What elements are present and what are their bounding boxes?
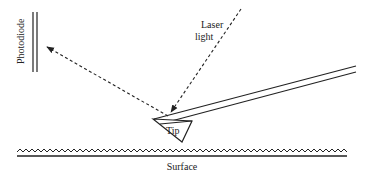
reflected-beam <box>47 47 168 116</box>
surface-wave <box>17 149 347 152</box>
laser-label-line2: light <box>195 31 214 42</box>
laser-label-line1: Laser <box>201 19 224 30</box>
photodiode-label: Photodiode <box>15 18 26 64</box>
afm-diagram: Photodiode Laser light Tip Surface <box>0 0 369 178</box>
surface-label: Surface <box>167 161 198 172</box>
photodiode <box>33 12 37 72</box>
cantilever <box>154 66 356 124</box>
tip-label: Tip <box>166 125 180 136</box>
